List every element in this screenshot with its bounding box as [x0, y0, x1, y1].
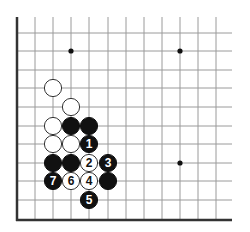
black-stone [62, 154, 79, 171]
black-stone: 1 [80, 135, 97, 152]
white-stone [44, 135, 61, 152]
black-stone [80, 117, 97, 134]
move-number: 2 [86, 156, 93, 170]
white-stone [44, 79, 61, 96]
move-number: 5 [86, 193, 93, 207]
go-board: 1237645 [0, 0, 250, 232]
move-number: 1 [86, 137, 93, 151]
black-stone: 5 [80, 191, 97, 208]
move-number: 6 [68, 174, 75, 188]
black-stone [99, 172, 116, 189]
white-stone: 2 [80, 154, 97, 171]
white-stone [44, 117, 61, 134]
black-stone [44, 154, 61, 171]
black-stone: 7 [44, 172, 61, 189]
white-stone: 6 [62, 172, 79, 189]
white-stone: 4 [80, 172, 97, 189]
white-stone [62, 135, 79, 152]
black-stone: 3 [99, 154, 116, 171]
move-number: 7 [50, 174, 57, 188]
white-stone [62, 98, 79, 115]
move-number: 4 [86, 174, 93, 188]
star-point-icon [68, 48, 73, 53]
black-stone [62, 117, 79, 134]
move-number: 3 [105, 156, 112, 170]
star-point-icon [177, 160, 182, 165]
star-point-icon [177, 48, 182, 53]
